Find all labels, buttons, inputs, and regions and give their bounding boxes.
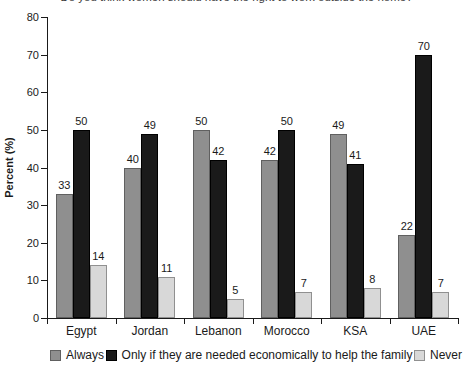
x-category-label: Morocco <box>253 324 322 338</box>
bar-jordan-2 <box>158 277 175 318</box>
legend-item-2: Never <box>414 348 462 362</box>
legend-swatch-icon <box>414 350 425 361</box>
y-tick-label: 80 <box>13 12 39 23</box>
x-category-label: Jordan <box>116 324 185 338</box>
legend-label: Always <box>66 348 104 362</box>
plot-area: 01020304050607080335014Egypt404911Jordan… <box>0 0 473 378</box>
bar-egypt-2 <box>90 265 107 318</box>
bar-value-label: 50 <box>64 115 98 127</box>
bar-value-label: 7 <box>424 277 458 289</box>
bar-value-label: 7 <box>287 277 321 289</box>
y-tick-label: 60 <box>13 87 39 98</box>
bar-chart-figure: Do you think women should have the right… <box>0 0 473 378</box>
y-tick-label: 20 <box>13 238 39 249</box>
bar-value-label: 70 <box>407 40 441 52</box>
bar-ksa-2 <box>364 288 381 318</box>
bar-morocco-2 <box>295 292 312 318</box>
legend: AlwaysOnly if they are needed economical… <box>50 347 462 363</box>
bar-ksa-0 <box>330 134 347 318</box>
y-tick-label: 50 <box>13 125 39 136</box>
bar-uae-2 <box>432 292 449 318</box>
x-category-label: KSA <box>321 324 390 338</box>
bar-value-label: 50 <box>270 115 304 127</box>
y-tick-label: 0 <box>13 313 39 324</box>
legend-swatch-icon <box>106 350 117 361</box>
x-category-label: UAE <box>390 324 459 338</box>
y-tick-label: 70 <box>13 50 39 61</box>
bar-value-label: 14 <box>81 250 115 262</box>
bar-morocco-1 <box>278 130 295 318</box>
bar-value-label: 8 <box>355 273 389 285</box>
bar-egypt-1 <box>73 130 90 318</box>
x-axis-tick <box>458 318 459 324</box>
legend-item-1: Only if they are needed economically to … <box>106 348 413 362</box>
x-category-label: Egypt <box>47 324 116 338</box>
legend-swatch-icon <box>50 350 61 361</box>
y-tick-label: 10 <box>13 275 39 286</box>
bar-ksa-1 <box>347 164 364 318</box>
y-tick-label: 40 <box>13 163 39 174</box>
bar-lebanon-0 <box>193 130 210 318</box>
bar-egypt-0 <box>56 194 73 318</box>
y-tick-label: 30 <box>13 200 39 211</box>
legend-label: Only if they are needed economically to … <box>122 348 413 362</box>
bar-value-label: 49 <box>133 119 167 131</box>
bar-value-label: 41 <box>338 149 372 161</box>
bar-value-label: 50 <box>184 115 218 127</box>
bar-morocco-0 <box>261 160 278 318</box>
legend-label: Never <box>430 348 462 362</box>
bar-value-label: 11 <box>150 262 184 274</box>
bar-lebanon-2 <box>227 299 244 318</box>
bar-value-label: 42 <box>201 145 235 157</box>
x-category-label: Lebanon <box>184 324 253 338</box>
legend-item-0: Always <box>50 348 104 362</box>
y-axis-line <box>47 17 48 323</box>
bar-jordan-0 <box>124 168 141 319</box>
bar-value-label: 49 <box>321 119 355 131</box>
bar-jordan-1 <box>141 134 158 318</box>
bar-uae-0 <box>398 235 415 318</box>
bar-value-label: 5 <box>218 284 252 296</box>
